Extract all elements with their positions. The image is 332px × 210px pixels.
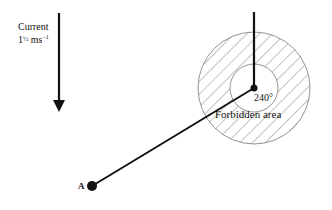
current-label: Current 1½ ms−1 bbox=[18, 21, 49, 45]
current-label-speed: 1½ ms−1 bbox=[18, 32, 49, 45]
centre-point bbox=[251, 85, 258, 92]
point-a-marker bbox=[87, 181, 97, 191]
angle-label: 240° bbox=[254, 92, 273, 103]
forbidden-area-ring bbox=[0, 0, 332, 210]
current-label-title: Current bbox=[18, 21, 49, 32]
point-a-label: A bbox=[78, 181, 85, 192]
diagram-canvas bbox=[0, 0, 332, 210]
forbidden-area-label: Forbidden area bbox=[215, 109, 281, 120]
